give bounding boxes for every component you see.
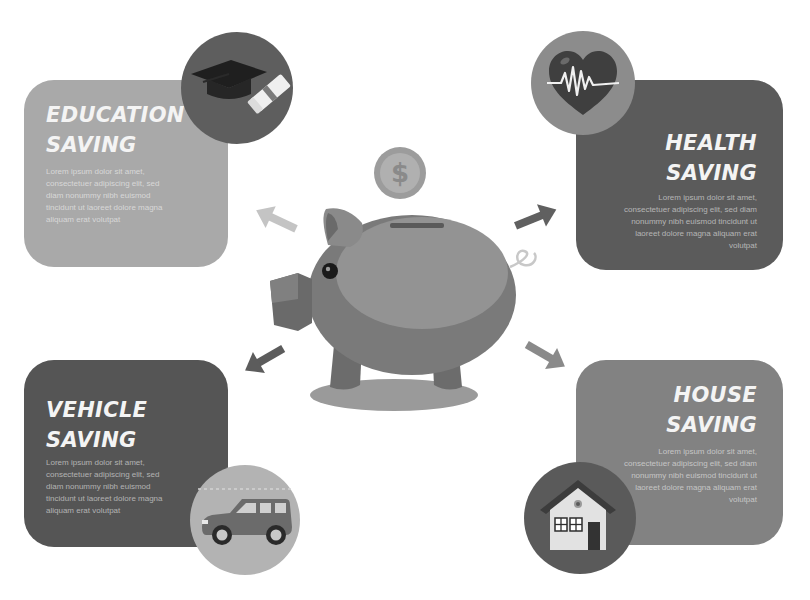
coin-icon: $ [372,145,428,201]
graduation-cap-icon [181,32,293,144]
card-vehicle-title: VEHICLE SAVING [46,395,147,455]
car-icon [190,465,300,575]
card-health-title: HEALTH SAVING [665,128,757,188]
health-icon-circle [531,31,635,135]
vehicle-icon-circle [190,465,300,575]
education-icon-circle [181,32,293,144]
house-icon [524,462,636,574]
piggy-bank-icon [262,195,542,415]
coin-symbol: $ [391,158,409,188]
card-house-title: HOUSE SAVING [666,380,757,440]
card-vehicle-body: Lorem ipsum dolor sit amet, consectetuer… [46,457,171,517]
house-icon-circle [524,462,636,574]
card-education-title: EDUCATION SAVING [46,100,185,160]
card-house-body: Lorem ipsum dolor sit amet, consectetuer… [617,446,757,506]
card-education-body: Lorem ipsum dolor sit amet, consectetuer… [46,166,176,226]
heartbeat-icon [531,31,635,135]
card-health-body: Lorem ipsum dolor sit amet, consectetuer… [617,192,757,252]
